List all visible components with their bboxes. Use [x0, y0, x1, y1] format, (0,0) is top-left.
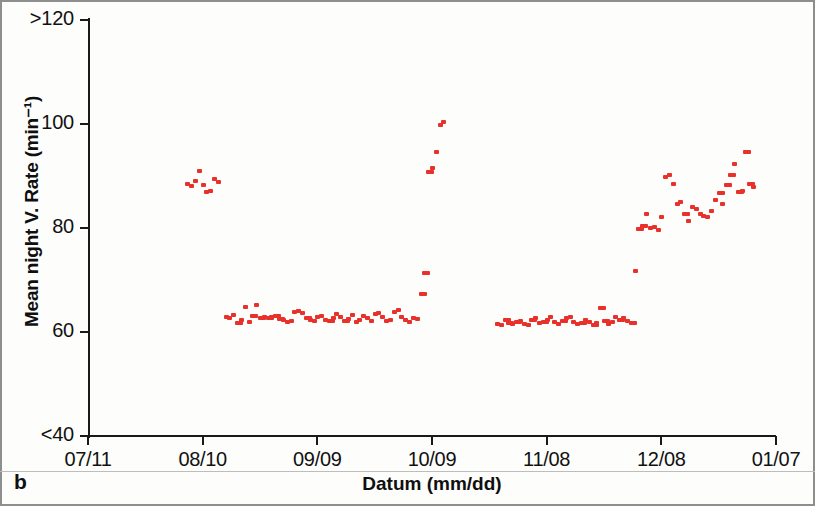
data-point: [740, 189, 745, 193]
figure-caption-divider: [0, 471, 815, 472]
x-tick-label: 11/08: [502, 448, 592, 471]
data-point: [548, 315, 553, 319]
data-point: [415, 317, 420, 321]
x-tick-label: 08/10: [158, 448, 248, 471]
data-point: [434, 150, 439, 154]
data-point: [720, 202, 725, 206]
data-point: [724, 183, 732, 187]
data-point: [713, 198, 718, 202]
data-point: [388, 318, 393, 322]
data-point: [396, 308, 401, 312]
data-point: [629, 321, 637, 325]
data-point: [678, 200, 683, 204]
data-point: [239, 318, 244, 322]
data-point: [350, 313, 355, 317]
x-tick-mark: [316, 436, 318, 445]
data-point: [216, 180, 221, 184]
x-tick-mark: [431, 436, 433, 445]
data-point: [633, 269, 638, 273]
data-point: [189, 184, 194, 188]
data-point: [201, 183, 206, 187]
x-tick-label: 09/09: [272, 448, 362, 471]
data-point: [499, 323, 504, 327]
data-point: [526, 323, 531, 327]
x-tick-mark: [546, 436, 548, 445]
data-point: [717, 191, 725, 195]
data-point: [667, 173, 672, 177]
data-point: [556, 322, 561, 326]
data-point: [430, 166, 435, 170]
data-point: [227, 316, 232, 320]
data-point: [709, 209, 714, 213]
data-point: [193, 179, 198, 183]
data-point: [331, 316, 336, 320]
figure-panel-b: >1201008060<40 07/1108/1009/0910/0911/08…: [0, 0, 815, 506]
panel-letter: b: [14, 470, 27, 494]
data-point: [659, 215, 664, 219]
data-point: [533, 316, 538, 320]
data-point: [369, 319, 374, 323]
data-point: [407, 320, 412, 324]
data-point: [694, 207, 699, 211]
x-tick-label: 10/09: [387, 448, 477, 471]
data-point: [426, 170, 434, 174]
x-tick-mark: [775, 436, 777, 445]
data-point: [312, 319, 317, 323]
data-point: [419, 292, 427, 296]
data-point: [254, 303, 259, 307]
data-point: [422, 271, 430, 275]
figure-border-top: [0, 0, 815, 2]
data-point: [686, 219, 691, 223]
y-tick-label: <40: [2, 423, 74, 446]
data-point: [594, 321, 599, 325]
data-point: [568, 315, 573, 319]
x-axis-title: Datum (mm/dd): [88, 473, 776, 495]
data-point: [682, 212, 690, 216]
data-point: [231, 313, 236, 317]
data-point: [208, 189, 213, 193]
data-point: [644, 212, 649, 216]
data-point: [289, 319, 294, 323]
data-point: [300, 311, 305, 315]
x-tick-mark: [202, 436, 204, 445]
x-tick-mark: [660, 436, 662, 445]
x-tick-mark: [87, 436, 89, 445]
data-point: [751, 185, 756, 189]
data-point: [247, 320, 252, 324]
data-point: [243, 305, 248, 309]
data-point: [656, 228, 661, 232]
data-point: [705, 215, 710, 219]
y-axis-title: Mean night V. Rate (min⁻¹): [20, 22, 43, 402]
scatter-plot-area: [88, 20, 775, 436]
data-point: [671, 182, 676, 186]
data-point: [197, 169, 202, 173]
data-point: [357, 318, 362, 322]
data-point: [743, 150, 751, 154]
x-tick-label: 12/08: [616, 448, 706, 471]
data-point: [728, 173, 736, 177]
x-tick-label: 07/11: [43, 448, 133, 471]
data-point: [441, 120, 446, 124]
data-point: [610, 320, 615, 324]
data-point: [598, 306, 606, 310]
x-tick-label: 01/07: [731, 448, 815, 471]
data-point: [732, 162, 737, 166]
data-point: [346, 317, 351, 321]
